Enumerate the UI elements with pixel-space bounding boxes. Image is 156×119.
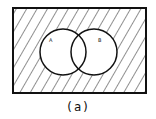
figure-caption: (a): [0, 100, 156, 114]
set-a-label: A: [49, 37, 53, 43]
set-b-label: B: [98, 37, 102, 43]
universe-shaded-region: [13, 8, 146, 93]
